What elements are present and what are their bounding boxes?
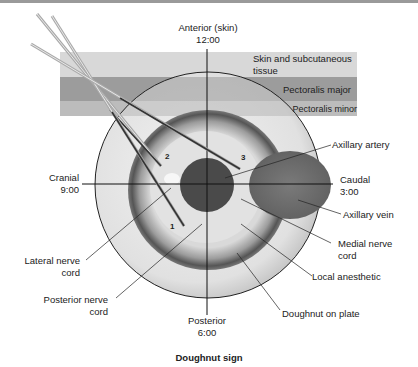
- posterior-cord-line1: Posterior nerve: [20, 294, 108, 306]
- medial-cord-line1: Medial nerve: [338, 238, 392, 250]
- axis-label-posterior: Posterior 6:00: [172, 315, 242, 339]
- layer-label-pectoralis-major: Pectoralis major: [250, 84, 351, 96]
- label-posterior-nerve-cord: Posterior nerve cord: [20, 294, 108, 318]
- axis-label-cranial: Cranial 9:00: [30, 172, 79, 196]
- lateral-cord-line2: cord: [10, 267, 80, 279]
- lateral-cord-line1: Lateral nerve: [10, 255, 80, 267]
- needle-position-3: 3: [241, 153, 245, 162]
- needle-position-1: 1: [170, 222, 174, 231]
- layer-label-skin: Skin and subcutaneous tissue: [253, 53, 352, 77]
- label-local-anesthetic: Local anesthetic: [312, 271, 381, 283]
- posterior-label: Posterior: [172, 315, 242, 327]
- skin-label-line2: tissue: [253, 65, 352, 77]
- caudal-label: Caudal: [340, 174, 370, 186]
- figure-caption: Doughnut sign: [0, 352, 418, 363]
- caudal-time: 3:00: [340, 186, 370, 198]
- medial-cord-line2: cord: [338, 250, 392, 262]
- layer-label-pectoralis-minor: Pectoralis minor: [250, 103, 357, 115]
- label-doughnut-on-plate: Doughnut on plate: [282, 308, 360, 320]
- anterior-label: Anterior (skin): [167, 22, 249, 34]
- label-lateral-nerve-cord: Lateral nerve cord: [10, 255, 80, 279]
- label-medial-nerve-cord: Medial nerve cord: [338, 238, 392, 262]
- lateral-cord: [164, 173, 180, 185]
- axis-label-anterior: Anterior (skin) 12:00: [167, 22, 249, 46]
- axis-label-caudal: Caudal 3:00: [340, 174, 370, 198]
- label-axillary-vein: Axillary vein: [343, 209, 394, 221]
- needle-position-2: 2: [165, 152, 169, 161]
- posterior-time: 6:00: [172, 327, 242, 339]
- posterior-cord-line2: cord: [20, 306, 108, 318]
- skin-label-line1: Skin and subcutaneous: [253, 53, 352, 65]
- label-axillary-artery: Axillary artery: [332, 139, 390, 151]
- anterior-time: 12:00: [167, 34, 249, 46]
- cranial-label: Cranial: [30, 172, 79, 184]
- cranial-time: 9:00: [30, 184, 79, 196]
